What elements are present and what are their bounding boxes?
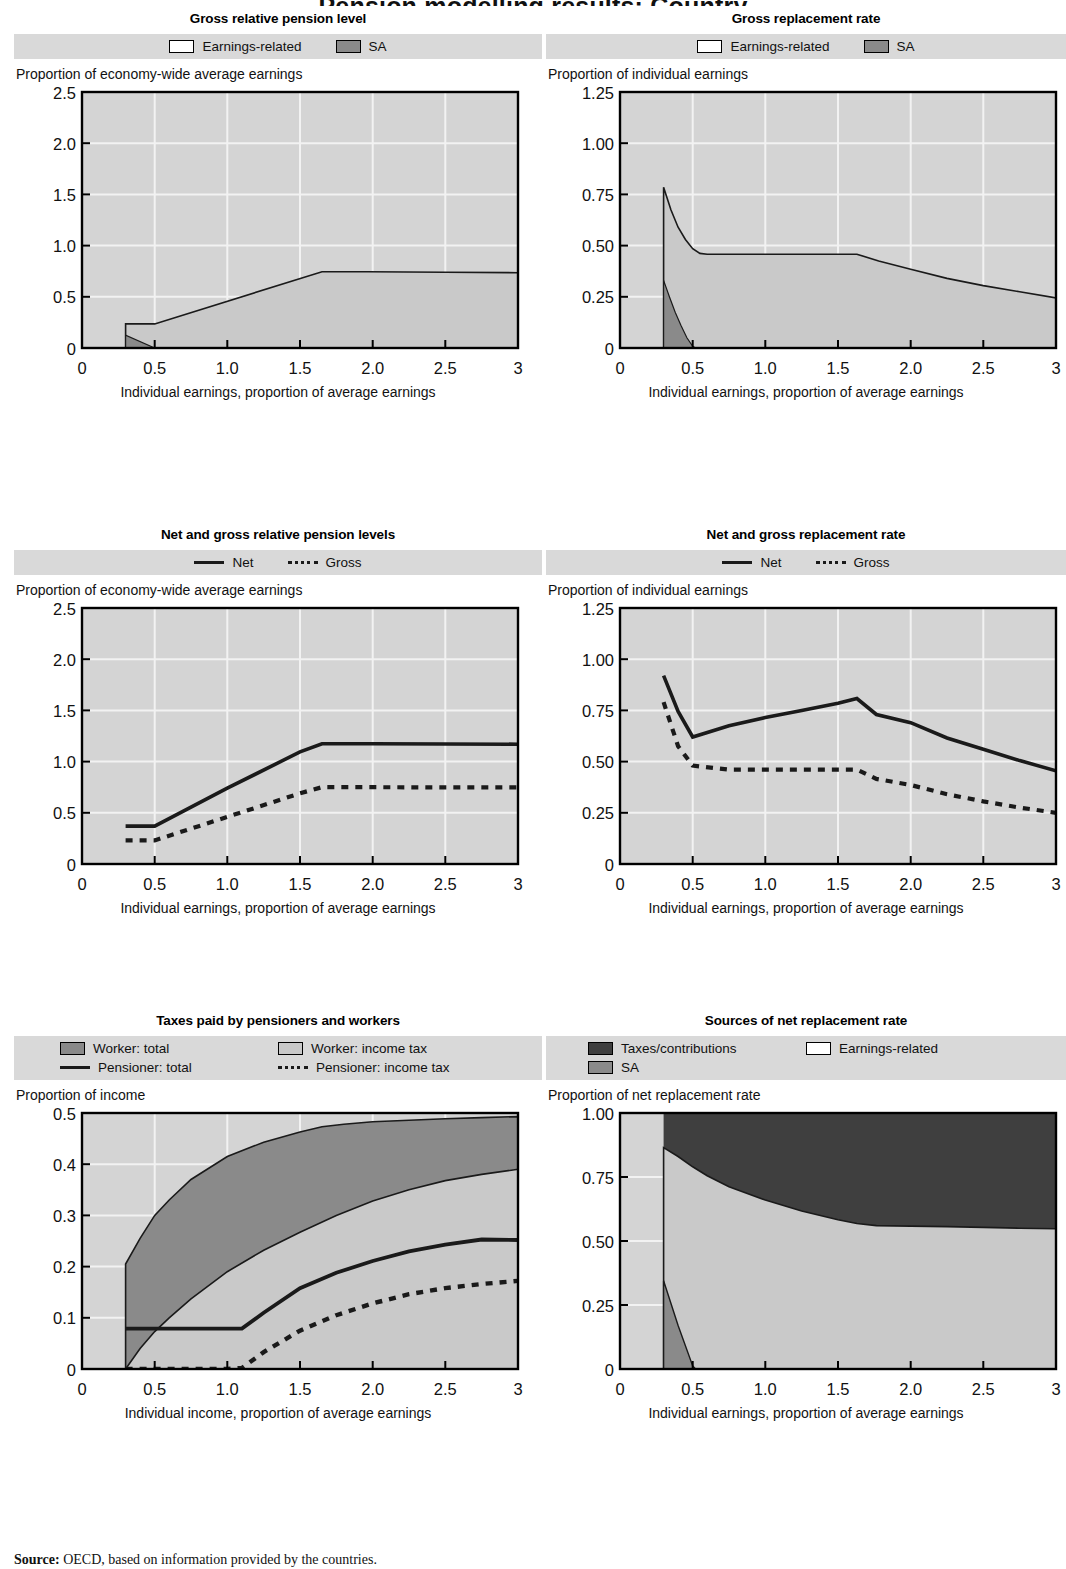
chart-title: Gross replacement rate [546,12,1066,27]
chart-svg-taxes-paid: 0.5 0.4 0.3 0.2 0.1 0 0 0.5 1.0 1.5 2.0 … [14,1105,542,1405]
chart-svg-net-gross-replacement-rate: 1.25 1.00 0.75 0.50 0.25 0 0 0.5 1.0 1.5… [546,600,1066,900]
plot-area: 2.5 2.0 1.5 1.0 0.5 0 0 0.5 1.0 1.5 2.0 … [14,600,542,900]
page-title: Pension modelling results: Country [0,0,1066,6]
svg-text:0.25: 0.25 [582,804,614,822]
svg-text:2.5: 2.5 [434,1380,457,1398]
x-tick-labels: 0 0.5 1.0 1.5 2.0 2.5 3 [77,1380,522,1398]
chart-title: Gross relative pension level [14,12,542,27]
swatch-earnings-related-icon [169,40,194,53]
legend-item-sa: SA [336,39,387,54]
svg-text:3: 3 [513,359,522,377]
svg-text:2.0: 2.0 [361,1380,384,1398]
plot-area: 1.00 0.75 0.50 0.25 0 0 0.5 1.0 1.5 2.0 … [546,1105,1066,1405]
swatch-taxes-contributions-icon [588,1042,613,1055]
y-axis-caption: Proportion of economy-wide average earni… [16,583,542,598]
chart-legend: Earnings-related SA [14,34,542,59]
svg-text:2.5: 2.5 [434,359,457,377]
x-axis-caption: Individual earnings, proportion of avera… [546,1406,1066,1421]
source-note: Source: OECD, based on information provi… [14,1552,377,1569]
svg-text:2.5: 2.5 [53,84,76,102]
chart-svg-sources-of-net-replacement-rate: 1.00 0.75 0.50 0.25 0 0 0.5 1.0 1.5 2.0 … [546,1105,1066,1405]
svg-text:2.5: 2.5 [972,1380,995,1398]
svg-text:3: 3 [1051,1380,1060,1398]
chart-legend: Taxes/contributions Earnings-related SA [546,1036,1066,1080]
y-tick-labels: 2.5 2.0 1.5 1.0 0.5 0 [53,84,76,358]
swatch-worker-income-tax-icon [278,1042,303,1055]
source-text: OECD, based on information provided by t… [63,1552,377,1567]
svg-text:3: 3 [1051,359,1060,377]
swatch-sa-icon [336,40,361,53]
svg-text:2.0: 2.0 [53,135,76,153]
svg-text:0: 0 [605,1361,614,1379]
svg-text:1.5: 1.5 [827,1380,850,1398]
svg-text:0.50: 0.50 [582,1233,614,1251]
svg-text:0.5: 0.5 [143,359,166,377]
svg-text:0.75: 0.75 [582,1169,614,1187]
svg-text:2.5: 2.5 [434,875,457,893]
legend-label: Gross [854,555,890,570]
legend-item-worker-total: Worker: total [60,1041,278,1056]
swatch-sa-icon [864,40,889,53]
x-axis-caption: Individual income, proportion of average… [14,1406,542,1421]
legend-label: SA [897,39,915,54]
chart-legend: Worker: total Worker: income tax Pension… [14,1036,542,1080]
chart-svg-gross-replacement-rate: 1.25 1.00 0.75 0.50 0.25 0 0 0.5 1.0 1.5… [546,84,1066,384]
svg-text:3: 3 [1051,875,1060,893]
svg-text:1.5: 1.5 [289,1380,312,1398]
y-tick-labels: 0.5 0.4 0.3 0.2 0.1 0 [53,1105,76,1379]
chart-svg-net-gross-relative-pension-levels: 2.5 2.0 1.5 1.0 0.5 0 0 0.5 1.0 1.5 2.0 … [14,600,542,900]
svg-text:0.25: 0.25 [582,288,614,306]
y-axis-caption: Proportion of economy-wide average earni… [16,67,542,82]
y-tick-labels: 2.5 2.0 1.5 1.0 0.5 0 [53,600,76,874]
svg-text:1.5: 1.5 [827,359,850,377]
legend-label: Earnings-related [202,39,301,54]
swatch-earnings-related-icon [806,1042,831,1055]
y-axis-caption: Proportion of individual earnings [548,583,1066,598]
svg-text:2.5: 2.5 [53,600,76,618]
legend-label: Taxes/contributions [621,1041,737,1056]
legend-label: Worker: total [93,1041,169,1056]
svg-text:2.0: 2.0 [899,359,922,377]
plot-area: 0.5 0.4 0.3 0.2 0.1 0 0 0.5 1.0 1.5 2.0 … [14,1105,542,1405]
svg-text:0: 0 [615,1380,624,1398]
legend-item-gross: Gross [816,555,890,570]
chart-legend: Earnings-related SA [546,34,1066,59]
legend-item-earnings-related: Earnings-related [169,39,301,54]
x-tick-labels: 0 0.5 1.0 1.5 2.0 2.5 3 [615,875,1060,893]
x-axis-caption: Individual earnings, proportion of avera… [14,901,542,916]
svg-text:0.5: 0.5 [681,1380,704,1398]
y-tick-labels: 1.25 1.00 0.75 0.50 0.25 0 [582,84,614,358]
svg-text:1.5: 1.5 [53,186,76,204]
chart-legend: Net Gross [546,550,1066,575]
svg-text:0.5: 0.5 [143,875,166,893]
svg-text:1.0: 1.0 [754,875,777,893]
plot-area: 2.5 2.0 1.5 1.0 0.5 0 0 0.5 1.0 1.5 2.0 … [14,84,542,384]
x-axis-caption: Individual earnings, proportion of avera… [14,385,542,400]
x-tick-labels: 0 0.5 1.0 1.5 2.0 2.5 3 [615,1380,1060,1398]
svg-text:1.0: 1.0 [754,1380,777,1398]
svg-text:0.1: 0.1 [53,1309,76,1327]
svg-text:1.5: 1.5 [289,875,312,893]
svg-text:1.25: 1.25 [582,84,614,102]
svg-text:2.0: 2.0 [899,1380,922,1398]
legend-label: Earnings-related [730,39,829,54]
svg-text:0.50: 0.50 [582,237,614,255]
svg-text:0.75: 0.75 [582,186,614,204]
y-tick-labels: 1.00 0.75 0.50 0.25 0 [582,1105,614,1379]
swatch-earnings-related-icon [697,40,722,53]
x-axis-caption: Individual earnings, proportion of avera… [546,901,1066,916]
panel-gross-replacement-rate: Gross replacement rate Earnings-related … [546,12,1066,401]
plot-area: 1.25 1.00 0.75 0.50 0.25 0 0 0.5 1.0 1.5… [546,600,1066,900]
series-areas [664,1113,1056,1369]
legend-item-sa: SA [588,1060,806,1075]
legend-item-taxes-contributions: Taxes/contributions [588,1041,806,1056]
legend-label: Net [232,555,253,570]
svg-text:1.0: 1.0 [216,1380,239,1398]
solid-line-icon [194,561,224,564]
figure-page: Pension modelling results: Country Gross… [0,0,1066,1569]
svg-text:2.0: 2.0 [53,651,76,669]
legend-label: Gross [326,555,362,570]
svg-text:0: 0 [77,359,86,377]
chart-svg-gross-relative-pension-level: 2.5 2.0 1.5 1.0 0.5 0 0 0.5 1.0 1.5 2.0 … [14,84,542,384]
svg-text:2.0: 2.0 [361,359,384,377]
